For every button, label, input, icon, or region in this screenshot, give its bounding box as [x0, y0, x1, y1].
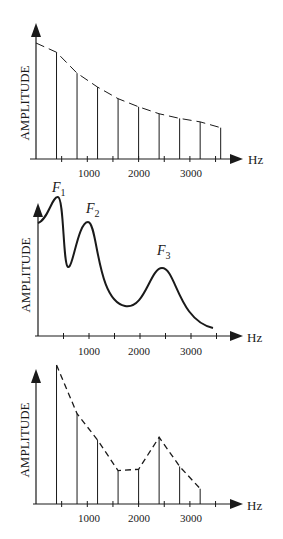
- x-axis-unit: Hz: [247, 498, 262, 513]
- tick-label-3000: 3000: [180, 512, 203, 524]
- figure-canvas: AMPLITUDE Hz 1000 2000 3000 F1 F2 F3 AMP…: [0, 0, 283, 539]
- y-axis-label: AMPLITUDE: [17, 402, 32, 477]
- chart-filter-function: F1 F2 F3 AMPLITUDE Hz 1000 2000 3000: [18, 180, 262, 357]
- tick-label-3000: 3000: [180, 345, 203, 357]
- y-axis-label: AMPLITUDE: [18, 237, 33, 312]
- tick-label-3000: 3000: [180, 167, 203, 179]
- formant-label-f2: F2: [85, 201, 100, 219]
- tick-label-2000: 2000: [128, 167, 151, 179]
- x-axis-arrow-icon: [230, 499, 243, 509]
- x-axis-arrow-icon: [230, 331, 243, 341]
- tick-label-2000: 2000: [128, 512, 151, 524]
- tick-label-1000: 1000: [78, 512, 101, 524]
- y-axis-arrow-icon: [33, 203, 43, 217]
- chart-output-spectrum: AMPLITUDE Hz 1000 2000 3000: [17, 365, 262, 524]
- y-axis-arrow-icon: [31, 23, 41, 37]
- tick-label-2000: 2000: [128, 345, 151, 357]
- harmonic-bars: [57, 365, 201, 504]
- tick-label-1000: 1000: [78, 167, 101, 179]
- filter-curve: [38, 197, 213, 328]
- envelope-line: [57, 365, 201, 489]
- y-axis-label: AMPLITUDE: [17, 65, 32, 140]
- tick-label-1000: 1000: [78, 345, 101, 357]
- harmonic-bars: [57, 52, 221, 159]
- formant-label-f3: F3: [156, 243, 171, 261]
- chart-source-spectrum: AMPLITUDE Hz 1000 2000 3000: [17, 23, 263, 179]
- x-axis-arrow-icon: [230, 154, 243, 164]
- envelope-curve: [36, 43, 221, 128]
- x-axis-unit: Hz: [248, 152, 263, 167]
- y-axis-arrow-icon: [31, 369, 41, 383]
- x-axis-unit: Hz: [247, 330, 262, 345]
- formant-label-f1: F1: [51, 180, 66, 198]
